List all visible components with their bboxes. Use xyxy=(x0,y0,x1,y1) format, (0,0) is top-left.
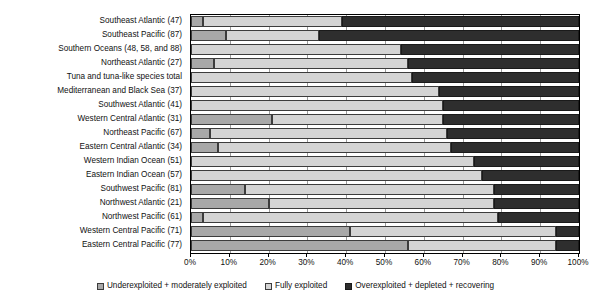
bar-segment-0 xyxy=(191,212,203,223)
stacked-bar xyxy=(191,44,579,55)
stacked-bar xyxy=(191,72,579,83)
bar-segment-0 xyxy=(191,16,203,27)
bar-row xyxy=(191,99,579,113)
legend-label: Fully exploited xyxy=(275,281,327,291)
bar-segment-2 xyxy=(498,212,579,223)
bar-segment-2 xyxy=(408,58,579,69)
legend-label: Overexploited + depleted + recovering xyxy=(355,281,494,291)
bar-segment-1 xyxy=(191,44,401,55)
plot-area xyxy=(190,14,580,254)
bar-segment-1 xyxy=(191,100,443,111)
bar-segment-1 xyxy=(191,86,439,97)
bar-segment-2 xyxy=(494,184,579,195)
x-tick-label: 70% xyxy=(453,258,469,268)
bar-row xyxy=(191,239,579,253)
bar-segment-0 xyxy=(191,58,214,69)
bar-segment-1 xyxy=(210,128,447,139)
x-tick-mark xyxy=(306,253,307,257)
bar-segment-0 xyxy=(191,226,350,237)
chart-legend: Underexploited + moderately exploitedFul… xyxy=(0,278,591,294)
x-tick-mark xyxy=(539,253,540,257)
stacked-bar-chart: Southeast Atlantic (47)Southeast Pacific… xyxy=(0,0,591,301)
bar-segment-0 xyxy=(191,240,408,251)
bar-segment-2 xyxy=(443,100,579,111)
bar-segment-2 xyxy=(443,114,579,125)
legend-item: Underexploited + moderately exploited xyxy=(97,281,247,291)
stacked-bar xyxy=(191,226,579,237)
stacked-bar xyxy=(191,128,579,139)
category-label: Southeast Pacific (87) xyxy=(102,28,182,42)
stacked-bar xyxy=(191,16,579,27)
x-axis: 0%10%20%30%40%50%60%70%80%90%100% xyxy=(190,253,578,273)
x-tick-mark xyxy=(462,253,463,257)
x-tick-label: 80% xyxy=(492,258,508,268)
bar-segment-0 xyxy=(191,198,269,209)
stacked-bar xyxy=(191,30,579,41)
bar-segment-1 xyxy=(214,58,408,69)
bar-row xyxy=(191,211,579,225)
category-label: Western Central Pacific (71) xyxy=(80,224,182,238)
stacked-bar xyxy=(191,184,579,195)
category-label: Tuna and tuna-like species total xyxy=(67,70,182,84)
x-tick-mark xyxy=(578,253,579,257)
legend-label: Underexploited + moderately exploited xyxy=(107,281,247,291)
bar-segment-1 xyxy=(350,226,556,237)
legend-swatch-overexploited xyxy=(345,283,352,290)
x-tick-label: 50% xyxy=(376,258,392,268)
category-label: Mediterranean and Black Sea (37) xyxy=(57,84,182,98)
bar-segment-0 xyxy=(191,128,210,139)
bar-row xyxy=(191,113,579,127)
x-tick-label: 90% xyxy=(531,258,547,268)
x-tick-mark xyxy=(190,253,191,257)
bar-row xyxy=(191,43,579,57)
x-tick-mark xyxy=(423,253,424,257)
stacked-bar xyxy=(191,170,579,181)
x-tick-label: 100% xyxy=(568,258,589,268)
category-label: Northeast Atlantic (27) xyxy=(101,56,182,70)
bar-row xyxy=(191,15,579,29)
category-label: Western Central Atlantic (31) xyxy=(77,112,182,126)
stacked-bar xyxy=(191,86,579,97)
bar-segment-0 xyxy=(191,114,272,125)
legend-swatch-fully-exploited xyxy=(265,283,272,290)
bar-segment-1 xyxy=(269,198,494,209)
bar-segment-2 xyxy=(401,44,579,55)
bar-segment-2 xyxy=(447,128,579,139)
bar-segment-2 xyxy=(556,240,579,251)
category-label: Northwest Pacific (61) xyxy=(102,210,182,224)
bar-segment-1 xyxy=(203,16,343,27)
stacked-bar xyxy=(191,198,579,209)
category-label: Southeast Atlantic (47) xyxy=(100,14,182,28)
bar-segment-1 xyxy=(191,72,412,83)
stacked-bar xyxy=(191,142,579,153)
legend-item: Fully exploited xyxy=(265,281,327,291)
bar-segment-2 xyxy=(482,170,579,181)
x-tick-label: 10% xyxy=(221,258,237,268)
stacked-bar xyxy=(191,240,579,251)
stacked-bar xyxy=(191,58,579,69)
category-label: Eastern Central Pacific (77) xyxy=(82,238,182,252)
x-tick-label: 30% xyxy=(298,258,314,268)
category-label: Eastern Indian Ocean (57) xyxy=(86,168,182,182)
category-label: Eastern Central Atlantic (34) xyxy=(80,140,182,154)
bar-row xyxy=(191,183,579,197)
bar-segment-1 xyxy=(245,184,493,195)
bar-segment-1 xyxy=(191,170,482,181)
bar-row xyxy=(191,141,579,155)
bar-segment-2 xyxy=(319,30,579,41)
bar-segment-0 xyxy=(191,30,226,41)
bar-segment-1 xyxy=(191,156,474,167)
x-tick-label: 0% xyxy=(184,258,196,268)
bar-row xyxy=(191,57,579,71)
bar-segment-1 xyxy=(203,212,498,223)
bar-segment-0 xyxy=(191,184,245,195)
x-tick-label: 40% xyxy=(337,258,353,268)
category-label: Southwest Atlantic (41) xyxy=(98,98,182,112)
category-axis-labels: Southeast Atlantic (47)Southeast Pacific… xyxy=(0,14,186,252)
bar-row xyxy=(191,169,579,183)
stacked-bar xyxy=(191,100,579,111)
category-label: Western Indian Ocean (51) xyxy=(84,154,182,168)
bar-segment-2 xyxy=(474,156,579,167)
x-tick-mark xyxy=(345,253,346,257)
category-label: Northeast Pacific (67) xyxy=(103,126,182,140)
